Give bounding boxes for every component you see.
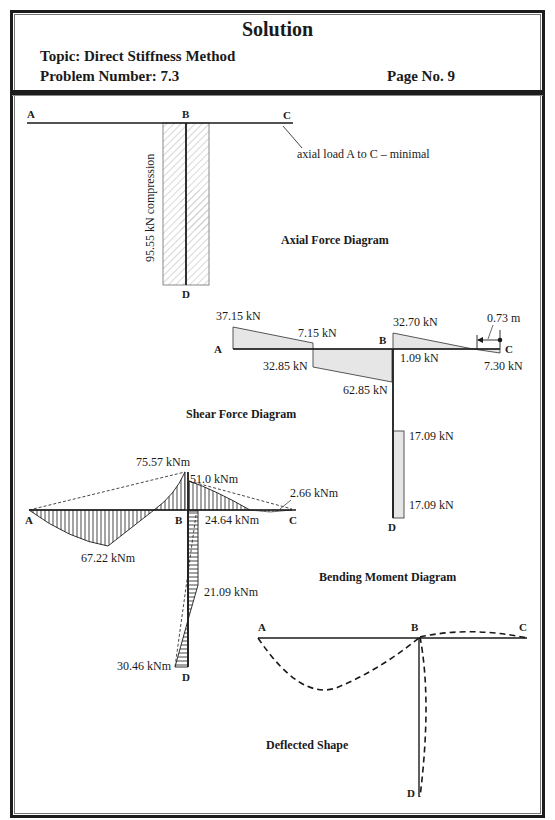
axial-node-c: C — [283, 109, 291, 121]
moment-node-b: B — [175, 514, 183, 526]
shear-label-b-right-top: 32.70 kN — [393, 315, 438, 329]
deflected-node-a: A — [258, 621, 266, 633]
deflected-caption: Deflected Shape — [266, 738, 349, 752]
shear-label-ab-mid-top: 7.15 kN — [298, 326, 337, 340]
shear-label-b-right-bottom: 1.09 kN — [400, 351, 439, 365]
axial-force-diagram: A B C D axial load A to C – minimal 95.5… — [27, 108, 430, 300]
axial-beam-note: axial load A to C – minimal — [297, 147, 430, 161]
moment-bd-upper — [188, 511, 198, 620]
axial-column-label: 95.55 kN compression — [143, 154, 157, 262]
moment-node-a: A — [25, 514, 33, 526]
axial-caption: Axial Force Diagram — [281, 233, 389, 247]
moment-ab-sagging — [29, 510, 154, 546]
axial-note-leader — [283, 126, 302, 148]
deflected-bc-curve — [420, 632, 527, 638]
structural-diagrams: A B C D axial load A to C – minimal 95.5… — [0, 0, 555, 820]
axial-node-d: D — [182, 288, 190, 300]
shear-force-diagram: A B C D 37.15 kN 7.15 kN 32.85 kN 62.85 … — [186, 309, 523, 533]
deflected-node-d: D — [407, 787, 415, 799]
moment-caption: Bending Moment Diagram — [319, 570, 456, 584]
deflected-node-c: C — [519, 621, 527, 633]
shear-node-c: C — [505, 343, 513, 355]
shear-label-bd-bottom: 17.09 kN — [409, 498, 454, 512]
moment-label-bc-span: 24.64 kNm — [205, 513, 260, 527]
moment-label-d-base: 30.46 kNm — [117, 659, 172, 673]
deflected-bd-curve — [420, 637, 426, 797]
shear-label-a-top: 37.15 kN — [216, 309, 261, 323]
shear-bd-band — [393, 431, 404, 518]
moment-label-bd-mid: 21.09 kNm — [204, 585, 259, 599]
shear-label-c-bottom: 7.30 kN — [484, 359, 523, 373]
shear-label-zero-distance: 0.73 m — [487, 311, 521, 325]
moment-label-c-near: 2.66 kNm — [290, 486, 339, 500]
moment-bd-lower — [175, 620, 188, 667]
moment-ab-hogging — [154, 472, 185, 510]
axial-node-a: A — [27, 108, 35, 120]
deflected-shape-diagram: A B C D Deflected Shape — [258, 621, 527, 799]
shear-caption: Shear Force Diagram — [186, 407, 296, 421]
moment-label-ab-span: 67.22 kNm — [81, 551, 136, 565]
shear-ab-negative — [313, 349, 392, 382]
moment-node-d: D — [182, 671, 190, 683]
moment-label-b-right: 51.0 kNm — [190, 472, 239, 486]
shear-bc-positive — [393, 333, 473, 349]
deflected-node-b: B — [411, 621, 419, 633]
shear-label-ab-mid-bottom: 32.85 kN — [263, 359, 308, 373]
bending-moment-diagram: A B C D 75.57 kNm 51.0 kNm 2.66 kNm 67.2… — [25, 455, 456, 683]
moment-label-b-peak: 75.57 kNm — [136, 455, 191, 469]
moment-node-c: C — [289, 514, 297, 526]
shear-dim-arrow — [477, 337, 483, 343]
deflected-ab-curve — [258, 637, 420, 690]
shear-node-b: B — [379, 334, 387, 346]
shear-label-b-left-bottom: 62.85 kN — [343, 383, 388, 397]
shear-dim-leader — [488, 325, 493, 339]
shear-node-d: D — [388, 521, 396, 533]
shear-label-bd-top: 17.09 kN — [409, 429, 454, 443]
axial-shading — [180, 190, 208, 230]
shear-node-a: A — [214, 343, 222, 355]
axial-node-b: B — [182, 108, 190, 120]
